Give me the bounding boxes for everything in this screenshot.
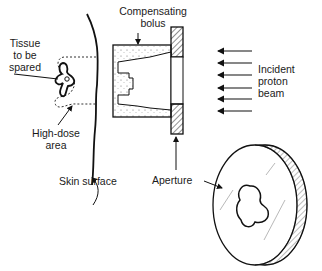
beam-label-line3: beam (258, 87, 295, 99)
beam-label-line1: Incident (258, 63, 295, 75)
aperture-label: Aperture (152, 174, 192, 186)
bolus-label-line2: bolus (112, 17, 194, 29)
beam-label-line2: proton (258, 75, 295, 87)
aperture-side-opening (171, 57, 183, 104)
compensating-bolus-label: Compensating bolus (112, 5, 194, 29)
tissue-label-line2: to be (3, 49, 47, 61)
incident-beam-label: Incident proton beam (258, 63, 295, 99)
aperture-side-top (171, 27, 183, 57)
aperture-side-bottom (171, 104, 183, 134)
skin-surface-label: Skin surface (59, 175, 117, 187)
aperture-disc (213, 145, 307, 265)
high-dose-pointer (58, 106, 72, 125)
tissue-label-line3: spared (3, 61, 47, 73)
high-dose-label: High-dose area (28, 127, 84, 151)
skin-surface-line (87, 14, 98, 185)
bolus-label-line1: Compensating (112, 5, 194, 17)
high-dose-label-line1: High-dose (28, 127, 84, 139)
tissue-label-line1: Tissue (3, 37, 47, 49)
tissue-label: Tissue to be spared (3, 37, 47, 73)
high-dose-label-line2: area (28, 139, 84, 151)
tissue-pointer (14, 74, 58, 79)
incident-beam-arrows (218, 51, 252, 111)
